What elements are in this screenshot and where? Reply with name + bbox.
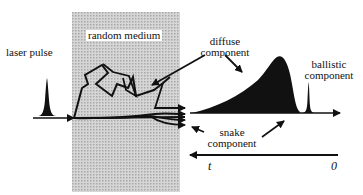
laser-pulse-label: laser pulse (6, 47, 53, 58)
time-axis-end-label: 0 (331, 159, 337, 174)
time-axis-start-label: t (208, 159, 211, 174)
laser-pulse-shape (38, 78, 56, 116)
diffuse-label-line2: component (190, 47, 260, 58)
snake-component-label: snake component (203, 127, 261, 149)
snake-pointer-arrow-right (262, 121, 284, 137)
snake-label-line2: component (203, 138, 261, 149)
diffuse-component-hump (192, 56, 300, 113)
diffuse-component-label: diffuse component (190, 36, 260, 58)
random-medium-label: random medium (86, 30, 162, 41)
diagram-graphics (0, 0, 363, 195)
ballistic-label-line2: component (297, 70, 361, 81)
ballistic-path (74, 117, 185, 118)
ballistic-component-peak (303, 82, 314, 113)
ballistic-component-label: ballistic component (297, 59, 361, 81)
light-scattering-diagram: laser pulse random medium diffuse compon… (0, 0, 363, 195)
